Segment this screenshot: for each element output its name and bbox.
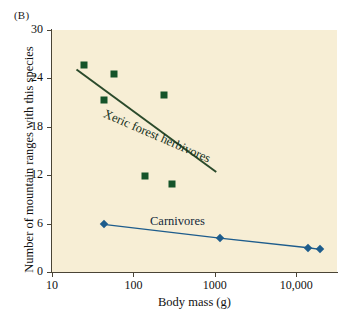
x-tick — [215, 272, 216, 277]
y-tick — [47, 175, 52, 176]
data-point-herbivore — [142, 173, 149, 180]
figure-panel-b: (B) 0612182430 10100100010,000 Number of… — [0, 0, 351, 319]
x-tick — [296, 272, 297, 277]
y-tick — [47, 30, 52, 31]
x-tick-label: 10,000 — [266, 278, 326, 293]
y-tick — [47, 127, 52, 128]
x-tick-label: 100 — [103, 278, 163, 293]
x-axis-line — [51, 272, 338, 273]
x-tick — [133, 272, 134, 277]
x-axis-title: Body mass (g) — [52, 295, 337, 310]
y-axis-line — [51, 29, 52, 273]
x-tick-label: 1000 — [185, 278, 245, 293]
data-point-herbivore — [160, 92, 167, 99]
data-point-herbivore — [169, 181, 176, 188]
data-point-herbivore — [111, 70, 118, 77]
panel-label: (B) — [14, 9, 29, 21]
y-tick — [47, 78, 52, 79]
series-label-carnivores: Carnivores — [150, 214, 205, 229]
data-point-herbivore — [100, 97, 107, 104]
data-point-herbivore — [81, 61, 88, 68]
y-tick — [47, 224, 52, 225]
y-axis-title: Number of mountain ranges with this spec… — [22, 35, 37, 285]
x-tick — [52, 272, 53, 277]
